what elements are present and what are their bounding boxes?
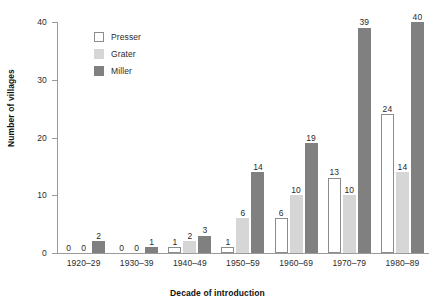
- bar-value-label: 13: [329, 168, 339, 177]
- x-tick-label: 1940–49: [163, 258, 216, 268]
- bar-slot-presser: 6: [275, 22, 288, 253]
- bar-slot-grater: 0: [77, 22, 90, 253]
- bar-miller: [198, 236, 211, 253]
- bar-chart: 010203040 Number of villages Decade of i…: [0, 0, 435, 308]
- chart-legend: PresserGraterMiller: [94, 28, 141, 79]
- bar-group: 131039: [323, 22, 376, 253]
- bar-grater: [236, 218, 249, 253]
- bar-value-label: 14: [253, 163, 263, 172]
- legend-label: Presser: [111, 32, 141, 42]
- x-tick-label: 1980–89: [376, 258, 429, 268]
- bar-value-label: 0: [134, 244, 139, 253]
- y-tick-label: 10: [0, 190, 47, 200]
- bar-presser: [168, 247, 181, 253]
- bar-presser: [221, 247, 234, 253]
- x-tick-label: 1950–59: [216, 258, 269, 268]
- bar-slot-miller: 14: [251, 22, 264, 253]
- bar-grater: [343, 195, 356, 253]
- x-axis-line: [57, 253, 429, 254]
- legend-swatch-icon: [94, 49, 104, 59]
- legend-item-grater: Grater: [94, 45, 141, 62]
- bar-slot-presser: 1: [221, 22, 234, 253]
- bar-slot-grater: 2: [183, 22, 196, 253]
- bar-presser: [328, 178, 341, 253]
- bar-slot-grater: 10: [290, 22, 303, 253]
- bar-slot-grater: 6: [236, 22, 249, 253]
- bar-slot-miller: 3: [198, 22, 211, 253]
- bar-value-label: 0: [119, 244, 124, 253]
- bar-presser: [381, 114, 394, 253]
- bar-value-label: 2: [96, 232, 101, 241]
- bar-value-label: 6: [241, 209, 246, 218]
- bar-miller: [305, 143, 318, 253]
- bar-value-label: 6: [279, 209, 284, 218]
- x-axis-labels: 1920–291930–391940–491950–591960–691970–…: [57, 258, 429, 268]
- bar-grater: [396, 172, 409, 253]
- bar-grater: [290, 195, 303, 253]
- bar-slot-miller: 1: [145, 22, 158, 253]
- bar-group: 241440: [376, 22, 429, 253]
- bar-slot-grater: 14: [396, 22, 409, 253]
- y-tick-mark: [52, 253, 58, 254]
- bar-value-label: 10: [344, 186, 354, 195]
- bar-presser: [275, 218, 288, 253]
- bar-miller: [358, 28, 371, 253]
- bar-value-label: 2: [187, 232, 192, 241]
- bar-value-label: 39: [359, 18, 369, 27]
- x-tick-label: 1960–69: [270, 258, 323, 268]
- y-tick-label: 40: [0, 17, 47, 27]
- bar-value-label: 1: [172, 238, 177, 247]
- bar-value-label: 14: [398, 163, 408, 172]
- bar-slot-presser: 24: [381, 22, 394, 253]
- legend-label: Grater: [111, 49, 136, 59]
- bar-slot-presser: 13: [328, 22, 341, 253]
- x-tick-label: 1970–79: [323, 258, 376, 268]
- bar-group: 61019: [270, 22, 323, 253]
- legend-item-presser: Presser: [94, 28, 141, 45]
- x-tick-label: 1920–29: [57, 258, 110, 268]
- bar-group: 1614: [216, 22, 269, 253]
- bar-value-label: 19: [306, 134, 316, 143]
- bar-slot-miller: 19: [305, 22, 318, 253]
- legend-swatch-icon: [94, 32, 104, 42]
- legend-label: Miller: [111, 66, 132, 76]
- bar-value-label: 3: [202, 226, 207, 235]
- bar-value-label: 10: [291, 186, 301, 195]
- legend-item-miller: Miller: [94, 62, 141, 79]
- bar-miller: [251, 172, 264, 253]
- legend-swatch-icon: [94, 66, 104, 76]
- x-axis-title: Decade of introduction: [0, 288, 435, 298]
- x-tick-label: 1930–39: [110, 258, 163, 268]
- bar-miller: [145, 247, 158, 253]
- bar-value-label: 24: [383, 105, 393, 114]
- y-axis-title: Number of villages: [6, 48, 16, 168]
- y-tick-label: 0: [0, 248, 47, 258]
- bar-slot-presser: 1: [168, 22, 181, 253]
- bar-value-label: 0: [66, 244, 71, 253]
- bar-value-label: 40: [413, 13, 423, 22]
- bar-miller: [411, 22, 424, 253]
- bar-value-label: 1: [226, 238, 231, 247]
- bar-group: 123: [163, 22, 216, 253]
- bar-value-label: 1: [149, 238, 154, 247]
- bar-miller: [92, 241, 105, 253]
- bar-slot-presser: 0: [62, 22, 75, 253]
- bar-value-label: 0: [81, 244, 86, 253]
- bar-grater: [183, 241, 196, 253]
- bar-slot-grater: 10: [343, 22, 356, 253]
- bar-slot-miller: 39: [358, 22, 371, 253]
- bar-slot-miller: 40: [411, 22, 424, 253]
